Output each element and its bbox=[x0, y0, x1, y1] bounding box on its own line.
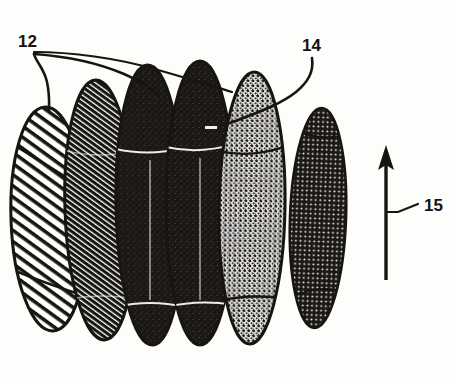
reference-numeral-12: 12 bbox=[18, 32, 37, 52]
figure-drawing bbox=[0, 0, 449, 382]
reference-numeral-15: 15 bbox=[424, 196, 443, 216]
reference-numeral-14: 14 bbox=[302, 36, 321, 56]
patent-figure: FIG. 3 bbox=[0, 0, 449, 382]
